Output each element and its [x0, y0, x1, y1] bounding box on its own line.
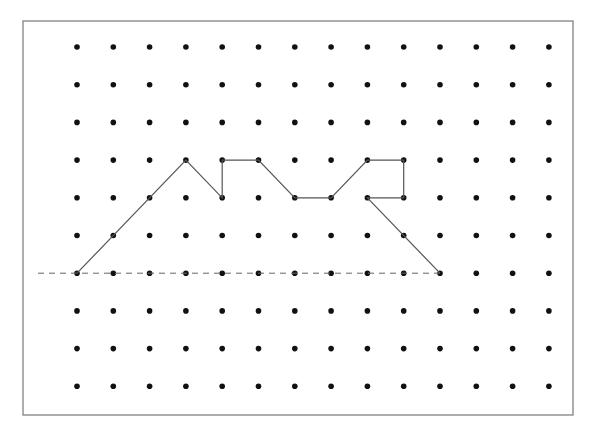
grid-dot: [474, 384, 480, 390]
grid-dot: [474, 195, 480, 201]
grid-dot: [147, 82, 153, 88]
grid-dot: [183, 346, 189, 352]
grid-dot: [401, 120, 407, 126]
grid-dot: [474, 270, 480, 276]
grid-dot: [256, 195, 262, 201]
grid-dots: [74, 44, 552, 389]
grid-dot: [256, 44, 262, 50]
grid-dot: [510, 195, 516, 201]
grid-dot: [147, 44, 153, 50]
grid-dot: [111, 120, 117, 126]
grid-dot: [510, 157, 516, 163]
grid-dot: [183, 120, 189, 126]
grid-dot: [183, 44, 189, 50]
grid-dot: [474, 120, 480, 126]
grid-dot: [510, 270, 516, 276]
grid-dot: [111, 308, 117, 314]
grid-dot: [546, 120, 552, 126]
grid-dot: [365, 308, 371, 314]
grid-dot: [328, 44, 334, 50]
grid-dot: [365, 233, 371, 239]
grid-dot: [328, 308, 334, 314]
grid-dot: [401, 346, 407, 352]
grid-dot: [111, 82, 117, 88]
grid-dot: [546, 308, 552, 314]
shape-outline: [77, 160, 440, 273]
grid-dot: [111, 44, 117, 50]
grid-dot: [365, 120, 371, 126]
grid-dot: [546, 82, 552, 88]
grid-dot: [365, 384, 371, 390]
grid-dot: [328, 157, 334, 163]
grid-dot: [328, 120, 334, 126]
grid-dot: [437, 308, 443, 314]
grid-dot: [510, 82, 516, 88]
dot-grid-diagram: [0, 0, 592, 436]
grid-dot: [437, 195, 443, 201]
grid-dot: [147, 233, 153, 239]
grid-dot: [437, 384, 443, 390]
grid-dot: [546, 195, 552, 201]
grid-dot: [328, 346, 334, 352]
grid-dot: [256, 308, 262, 314]
grid-dot: [111, 346, 117, 352]
grid-dot: [74, 157, 80, 163]
grid-dot: [256, 384, 262, 390]
grid-dot: [437, 233, 443, 239]
grid-dot: [292, 157, 298, 163]
grid-dot: [74, 346, 80, 352]
grid-dot: [219, 384, 225, 390]
grid-dot: [219, 120, 225, 126]
grid-dot: [546, 157, 552, 163]
grid-dot: [256, 233, 262, 239]
grid-dot: [292, 233, 298, 239]
grid-dot: [292, 346, 298, 352]
grid-dot: [510, 308, 516, 314]
grid-dot: [401, 308, 407, 314]
grid-dot: [147, 384, 153, 390]
grid-dot: [365, 82, 371, 88]
grid-dot: [292, 44, 298, 50]
grid-dot: [74, 82, 80, 88]
grid-dot: [546, 346, 552, 352]
grid-dot: [256, 120, 262, 126]
grid-dot: [292, 120, 298, 126]
grid-dot: [401, 384, 407, 390]
grid-dot: [219, 346, 225, 352]
grid-dot: [147, 120, 153, 126]
grid-dot: [328, 233, 334, 239]
grid-dot: [147, 157, 153, 163]
grid-dot: [510, 120, 516, 126]
grid-dot: [111, 157, 117, 163]
grid-dot: [474, 308, 480, 314]
grid-dot: [437, 82, 443, 88]
grid-dot: [147, 308, 153, 314]
grid-dot: [74, 308, 80, 314]
grid-dot: [401, 44, 407, 50]
grid-dot: [546, 270, 552, 276]
grid-dot: [74, 44, 80, 50]
grid-dot: [292, 308, 298, 314]
grid-dot: [474, 346, 480, 352]
grid-dot: [546, 44, 552, 50]
grid-dot: [219, 233, 225, 239]
grid-dot: [256, 82, 262, 88]
grid-dot: [219, 308, 225, 314]
grid-dot: [183, 233, 189, 239]
grid-dot: [183, 308, 189, 314]
grid-dot: [546, 384, 552, 390]
diagram-frame: [23, 21, 573, 415]
grid-dot: [219, 82, 225, 88]
grid-dot: [74, 384, 80, 390]
grid-dot: [365, 346, 371, 352]
grid-dot: [437, 120, 443, 126]
grid-dot: [183, 384, 189, 390]
grid-dot: [510, 233, 516, 239]
grid-dot: [183, 82, 189, 88]
grid-dot: [328, 82, 334, 88]
grid-dot: [365, 44, 371, 50]
grid-dot: [74, 120, 80, 126]
grid-dot: [474, 157, 480, 163]
grid-dot: [292, 384, 298, 390]
grid-dot: [437, 157, 443, 163]
